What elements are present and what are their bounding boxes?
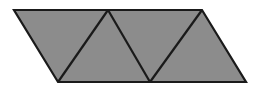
- parallelogram-figure: [0, 0, 256, 92]
- figure-canvas: [0, 0, 256, 92]
